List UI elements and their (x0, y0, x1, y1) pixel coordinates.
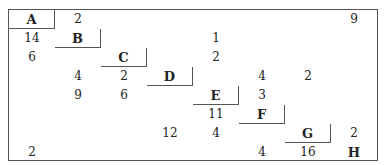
matrix-cell: 1 (193, 29, 239, 48)
matrix-cell: 9 (331, 10, 377, 29)
matrix-cell: 14 (9, 29, 55, 48)
diagonal-label-e: E (193, 86, 239, 105)
diagonal-label-g: G (285, 124, 331, 143)
matrix-cell: 2 (55, 10, 101, 29)
matrix-cell: 2 (331, 124, 377, 143)
matrix-cell: 11 (193, 105, 239, 124)
matrix-cell: 4 (239, 67, 285, 86)
design-structure-matrix: A B C D E F G H 2 9 14 1 6 2 4 2 4 2 9 6… (8, 9, 378, 161)
matrix-cell: 2 (285, 67, 331, 86)
matrix-cell: 12 (147, 124, 193, 143)
matrix-cell: 4 (193, 124, 239, 143)
diagonal-label-b: B (55, 29, 101, 48)
matrix-cell: 6 (101, 86, 147, 105)
matrix-cell: 2 (101, 67, 147, 86)
diagonal-label-c: C (101, 48, 147, 67)
diagonal-label-d: D (147, 67, 193, 86)
matrix-cell: 4 (239, 143, 285, 162)
matrix-cell: 4 (55, 67, 101, 86)
matrix-cell: 3 (239, 86, 285, 105)
matrix-cell: 9 (55, 86, 101, 105)
matrix-cell: 2 (193, 48, 239, 67)
diagonal-label-a: A (9, 10, 55, 29)
diagonal-label-h: H (331, 143, 377, 162)
diagonal-label-f: F (239, 105, 285, 124)
matrix-cell: 16 (285, 143, 331, 162)
matrix-cell: 6 (9, 48, 55, 67)
matrix-cell: 2 (9, 143, 55, 162)
